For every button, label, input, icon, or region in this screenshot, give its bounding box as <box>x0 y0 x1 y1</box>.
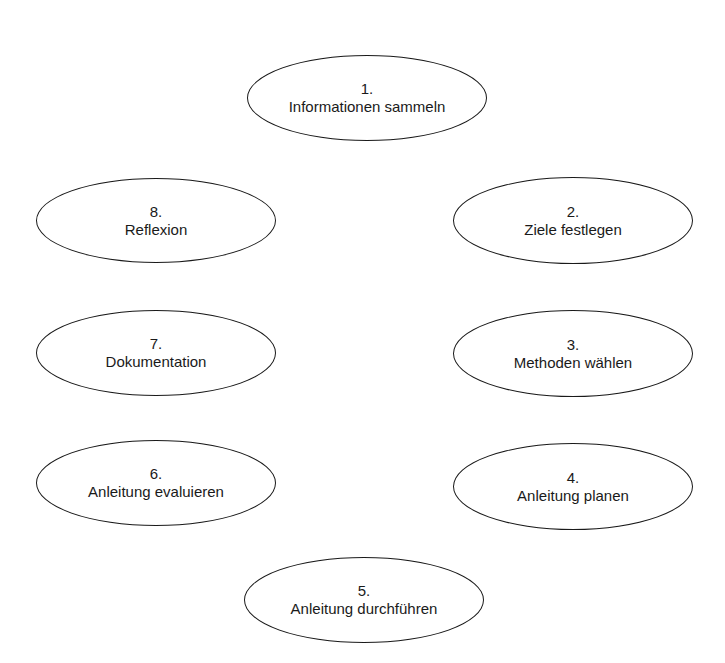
step-3-ellipse: 3. Methoden wählen <box>453 310 693 397</box>
process-cycle-diagram: 1. Informationen sammeln 2. Ziele festle… <box>0 0 725 663</box>
step-4-ellipse: 4. Anleitung planen <box>453 443 693 530</box>
step-6-ellipse: 6. Anleitung evaluieren <box>36 440 276 526</box>
step-number: 5. <box>358 582 371 600</box>
step-2-ellipse: 2. Ziele festlegen <box>453 177 693 264</box>
step-7-ellipse: 7. Dokumentation <box>36 310 276 396</box>
step-number: 7. <box>150 335 163 353</box>
step-label: Methoden wählen <box>514 354 632 372</box>
step-label: Informationen sammeln <box>289 98 446 116</box>
step-1-ellipse: 1. Informationen sammeln <box>247 55 487 141</box>
step-number: 8. <box>150 203 163 221</box>
step-number: 4. <box>567 469 580 487</box>
step-label: Ziele festlegen <box>524 221 622 239</box>
step-number: 3. <box>567 336 580 354</box>
step-label: Anleitung planen <box>517 487 629 505</box>
step-number: 6. <box>150 465 163 483</box>
step-5-ellipse: 5. Anleitung durchführen <box>244 557 484 643</box>
step-number: 1. <box>361 80 374 98</box>
step-label: Reflexion <box>125 221 188 239</box>
step-label: Anleitung durchführen <box>291 600 438 618</box>
step-number: 2. <box>567 203 580 221</box>
step-8-ellipse: 8. Reflexion <box>36 178 276 263</box>
step-label: Anleitung evaluieren <box>88 483 224 501</box>
step-label: Dokumentation <box>106 353 207 371</box>
